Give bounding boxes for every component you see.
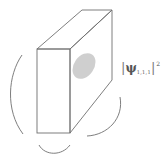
psi-symbol: ψ xyxy=(125,61,136,75)
quantum-numbers-subscript: 1,1,1 xyxy=(137,69,151,75)
box-diagram xyxy=(0,0,165,160)
wavefunction-label: |ψ1,1,1|2 xyxy=(121,61,160,75)
square-superscript: 2 xyxy=(156,60,160,67)
box-top-face xyxy=(37,10,112,49)
abs-bar-right: | xyxy=(151,60,155,75)
rotation-arc-bottom xyxy=(39,145,70,153)
rotation-arc-left xyxy=(10,55,23,134)
probability-density-blob xyxy=(68,49,100,83)
rotation-arc-right xyxy=(87,97,121,136)
box-front-face xyxy=(37,49,70,133)
